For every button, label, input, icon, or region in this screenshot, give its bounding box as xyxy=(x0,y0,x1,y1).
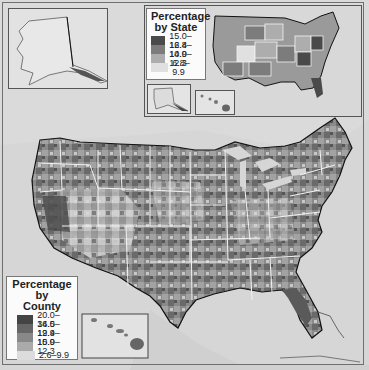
map-border xyxy=(2,2,364,365)
map-frame: Percentage by State 15.0–16.8 12.4–14.9 … xyxy=(0,0,369,370)
